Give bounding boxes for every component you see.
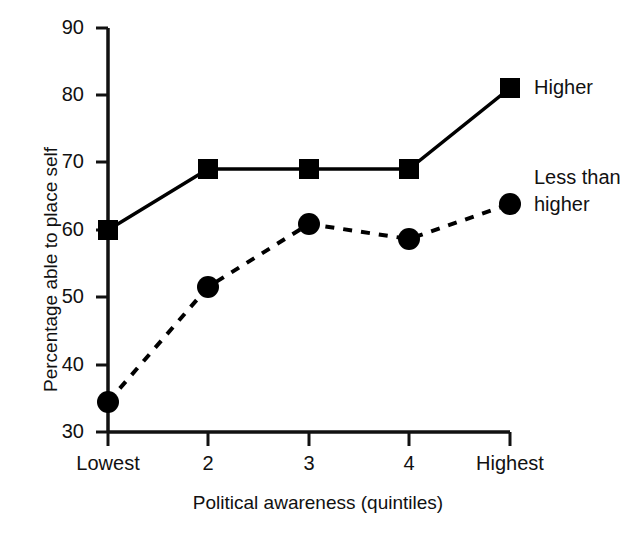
series-less-than-higher-markers: [97, 193, 521, 413]
marker-less-2: [197, 276, 219, 298]
legend-label-less-than-higher: Less than higher: [534, 164, 621, 218]
y-axis-title: Percentage able to place self: [40, 147, 62, 392]
chart-figure: 90 80 70 60 50 40 30 Lowest 2 3 4 Highes…: [0, 0, 636, 536]
legend-label-higher: Higher: [534, 74, 593, 101]
marker-higher-4: [399, 159, 419, 179]
marker-higher-lowest: [98, 220, 118, 240]
marker-less-lowest: [97, 391, 119, 413]
marker-less-4: [398, 228, 420, 250]
x-axis-ticks: [108, 432, 510, 446]
x-tick-label-highest: Highest: [440, 452, 580, 475]
marker-higher-2: [198, 159, 218, 179]
marker-less-highest: [499, 193, 521, 215]
marker-less-3: [298, 213, 320, 235]
x-axis-title: Political awareness (quintiles): [0, 492, 636, 514]
y-tick-label-90: 90: [38, 16, 84, 39]
marker-higher-3: [299, 159, 319, 179]
y-tick-label-80: 80: [38, 83, 84, 106]
y-tick-label-30: 30: [38, 420, 84, 443]
marker-higher-highest: [500, 78, 520, 98]
